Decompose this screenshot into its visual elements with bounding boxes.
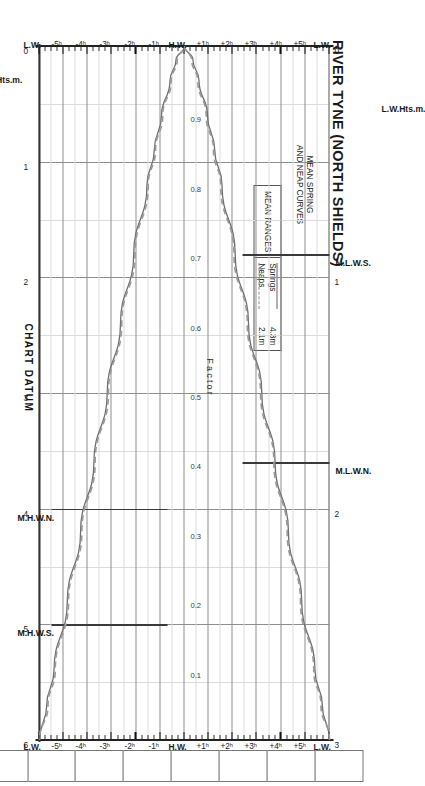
hour-label-+5: +5ʰ <box>293 40 305 49</box>
factor-tick-0-2: 0.2 <box>190 601 201 610</box>
time-entry-box[interactable] <box>218 750 267 782</box>
factor-tick-0-7: 0.7 <box>190 254 201 263</box>
time-entry-box[interactable] <box>122 750 171 782</box>
factor-tick-0-9: 0.9 <box>190 115 201 124</box>
left-height-tick-1: 1 <box>23 162 28 172</box>
hour-label--4: -4ʰ <box>75 40 85 49</box>
factor-axis-title: Factor <box>204 358 214 397</box>
factor-tick-0-5: 0.5 <box>190 393 201 402</box>
tidal-curves <box>39 46 329 740</box>
factor-tick-0-6: 0.6 <box>190 324 201 333</box>
time-entry-box[interactable] <box>0 750 28 782</box>
hour-label--2: -2ʰ <box>124 40 134 49</box>
hour-label-+3: +3ʰ <box>245 40 257 49</box>
level-label-mlws: M.L.W.S. <box>335 258 370 268</box>
factor-tick-0-4: 0.4 <box>190 462 201 471</box>
hour-label-+2: +2ʰ <box>220 40 232 49</box>
level-label-mhws: M.H.W.S. <box>17 628 53 638</box>
left-height-tick-6: 6 <box>23 740 28 750</box>
right-height-tick-2: 2 <box>334 509 339 519</box>
left-height-tick-0: 0 <box>23 46 28 56</box>
factor-tick-0-3: 0.3 <box>190 532 201 541</box>
right-height-tick-3: 3 <box>334 740 339 750</box>
factor-tick-0-1: 0.1 <box>190 671 201 680</box>
factor-tick-0-8: 0.8 <box>190 185 201 194</box>
hour-label-+4: +4ʰ <box>269 40 281 49</box>
time-entry-box[interactable] <box>266 750 315 782</box>
hour-label--3: -3ʰ <box>100 40 110 49</box>
left-height-tick-2: 2 <box>23 277 28 287</box>
hour-label-lw: L.W. <box>313 40 330 50</box>
page-title: RIVER TYNE (NORTH SHIELDS) <box>329 40 345 267</box>
neaps-curve <box>39 46 329 740</box>
hour-label--1: -1ʰ <box>148 40 158 49</box>
right-scale-name: L.W.Hts.m. <box>381 104 425 114</box>
time-entry-box[interactable] <box>27 750 76 782</box>
time-entry-box[interactable] <box>74 750 123 782</box>
time-entry-box[interactable] <box>170 750 219 782</box>
right-height-tick-1: 1 <box>334 277 339 287</box>
hour-label-+1: +1ʰ <box>196 40 208 49</box>
hour-label-hw: H.W. <box>168 40 186 50</box>
time-entry-boxes[interactable] <box>0 752 363 782</box>
plot-area <box>39 46 329 740</box>
springs-curve <box>39 46 329 740</box>
chart-datum-label: CHART DATUM <box>22 324 33 413</box>
level-label-mlwn: M.L.W.N. <box>335 466 371 476</box>
left-scale-name: H.W.Hts.m. <box>0 75 22 85</box>
right-height-tick-0: 0 <box>334 46 339 56</box>
time-entry-box[interactable] <box>314 750 363 782</box>
hour-label--5: -5ʰ <box>51 40 61 49</box>
level-label-mhwn: M.H.W.N. <box>17 513 54 523</box>
